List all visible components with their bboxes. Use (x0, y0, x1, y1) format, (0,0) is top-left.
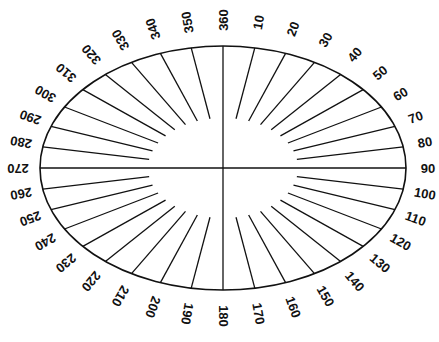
spoke-10 (236, 48, 255, 119)
label-260: 260 (9, 184, 33, 203)
label-360: 360 (216, 9, 231, 31)
label-120: 120 (387, 230, 413, 254)
label-300: 300 (32, 82, 58, 106)
label-140: 140 (342, 268, 367, 294)
ellipse-protractor: 3601020304050607080901001101201301401501… (0, 0, 439, 342)
spoke-60 (288, 107, 382, 143)
spoke-330 (132, 62, 186, 124)
spoke-260 (43, 177, 149, 190)
spoke-200 (160, 215, 197, 283)
label-310: 310 (53, 60, 79, 85)
label-240: 240 (32, 230, 58, 254)
label-200: 200 (142, 294, 164, 320)
spoke-290 (51, 126, 152, 151)
label-90: 90 (421, 161, 435, 176)
label-40: 40 (344, 44, 365, 65)
spoke-110 (293, 185, 394, 210)
label-70: 70 (406, 108, 425, 127)
label-210: 210 (109, 283, 133, 309)
spoke-20 (249, 53, 286, 121)
label-160: 160 (282, 294, 304, 320)
spoke-100 (297, 177, 403, 190)
spoke-210 (132, 211, 186, 273)
spoke-250 (51, 185, 152, 210)
label-250: 250 (18, 208, 44, 230)
spoke-120 (288, 193, 382, 229)
label-270: 270 (7, 161, 29, 176)
spokes (40, 46, 406, 290)
label-340: 340 (142, 16, 164, 42)
label-50: 50 (370, 62, 391, 83)
label-220: 220 (79, 268, 104, 294)
spoke-340 (160, 53, 197, 121)
label-320: 320 (79, 41, 104, 67)
label-180: 180 (216, 305, 231, 327)
label-110: 110 (403, 208, 428, 229)
label-20: 20 (284, 20, 303, 39)
spoke-30 (261, 62, 315, 124)
label-10: 10 (250, 14, 267, 31)
spoke-190 (191, 217, 210, 288)
spoke-170 (236, 217, 255, 288)
spoke-80 (297, 147, 403, 160)
label-190: 190 (178, 302, 197, 326)
label-130: 130 (367, 250, 393, 275)
spoke-150 (261, 211, 315, 273)
spoke-70 (293, 126, 394, 151)
label-80: 80 (416, 134, 433, 151)
spoke-300 (65, 107, 159, 143)
label-170: 170 (249, 302, 268, 326)
label-60: 60 (391, 84, 411, 104)
label-280: 280 (9, 133, 33, 152)
protractor-diagram: 3601020304050607080901001101201301401501… (0, 0, 439, 342)
label-290: 290 (18, 107, 44, 129)
label-150: 150 (314, 283, 338, 309)
label-350: 350 (178, 10, 197, 34)
label-100: 100 (413, 184, 437, 203)
spoke-350 (191, 48, 210, 119)
spoke-160 (249, 215, 286, 283)
label-30: 30 (315, 30, 335, 50)
spoke-280 (43, 147, 149, 160)
label-230: 230 (53, 250, 79, 275)
spoke-240 (65, 193, 159, 229)
label-330: 330 (109, 27, 133, 53)
